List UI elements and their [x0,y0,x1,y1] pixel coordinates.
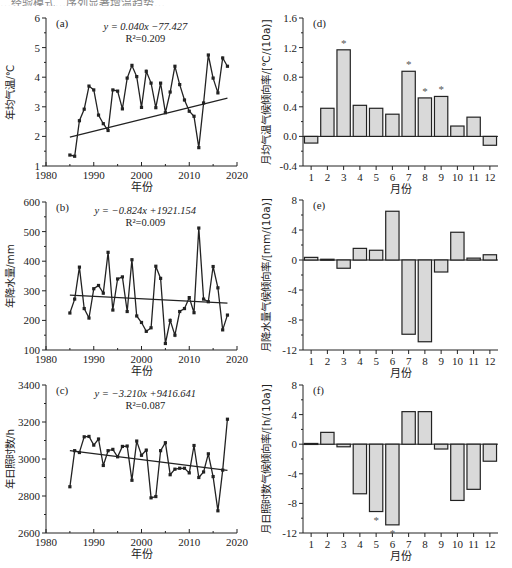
data-point [216,509,219,512]
x-axis-label: 月份 [390,550,412,563]
y-tick-label: -8 [288,497,298,509]
panel-label: (b) [56,201,69,214]
data-point [87,84,90,87]
data-point [216,286,219,289]
y-tick-label: 3000 [18,453,41,465]
x-axis-label: 月份 [390,183,412,196]
y-tick-label: 6 [35,12,41,24]
y-tick-label: 400 [24,255,41,267]
data-point [145,330,148,333]
x-tick-label: 9 [438,355,444,367]
x-tick-label: 3 [341,355,347,367]
data-point [126,310,129,313]
data-point [140,321,143,324]
data-point [178,83,181,86]
data-point [169,319,172,322]
data-point [68,153,71,156]
x-axis-label: 年份 [131,547,153,561]
x-tick-label: 4 [357,538,363,550]
bar-month-8 [418,412,431,445]
x-tick-label: 1980 [35,536,58,548]
x-tick-label: 8 [422,538,428,550]
x-tick-label: 12 [484,355,495,367]
data-point [68,311,71,314]
x-axis-label: 月份 [390,367,412,380]
panel-label: (a) [56,17,69,30]
data-point [135,439,138,442]
data-point [97,437,100,440]
data-point [102,464,105,467]
x-tick-label: 3 [341,538,347,550]
x-tick-label: 1980 [35,169,58,181]
bar-month-10 [451,126,464,136]
x-tick-label: 5 [373,355,379,367]
data-point [159,82,162,85]
data-point [178,467,181,470]
y-axis-label: 月降水量气候倾向率/[mm/(10a)] [260,198,272,352]
data-point [83,108,86,111]
data-point [226,65,229,68]
bar-month-2 [321,108,334,136]
x-tick-label: 2000 [131,169,154,181]
bar-month-11 [467,258,480,260]
x-tick-label: 3 [341,171,347,183]
data-point [188,296,191,299]
data-point [126,444,129,447]
regression-equation: y = 0.040x −77.427 [102,21,188,32]
panel-a: 123456年均气温/℃(a)19801990200020102020年份y =… [4,12,249,194]
x-axis-label: 年份 [131,180,153,194]
data-point [87,435,90,438]
y-tick-label: -4 [288,284,298,296]
data-point [102,122,105,125]
data-point [149,326,152,329]
data-point [126,76,129,79]
significance-marker: * [341,37,347,49]
data-point [173,65,176,68]
y-tick-label: 4 [292,224,298,236]
data-point [116,455,119,458]
data-point [106,449,109,452]
data-point [73,449,76,452]
y-tick-label: 3400 [18,379,41,391]
data-point [92,88,95,91]
data-point [212,475,215,478]
y-tick-label: 0 [292,254,298,266]
significance-marker: * [422,85,428,97]
bar-month-1 [304,257,317,260]
data-point [188,471,191,474]
data-point [97,113,100,116]
data-point [135,314,138,317]
y-tick-label: 200 [24,314,41,326]
y-axis-label: 月日照时数气候倾向率/[h/(10a)] [260,384,272,534]
y-tick-label: 2 [35,130,41,142]
bar-month-12 [483,444,496,461]
data-point [154,495,157,498]
data-point [192,311,195,314]
x-tick-label: 4 [357,171,363,183]
x-tick-label: 1990 [83,169,106,181]
x-tick-label: 1 [308,171,314,183]
data-point [121,445,124,448]
data-point [130,479,133,482]
y-tick-label: 4 [35,71,41,83]
data-point [87,316,90,319]
x-tick-label: 11 [468,171,479,183]
data-point [188,110,191,113]
data-point [207,300,210,303]
data-point [164,342,167,345]
x-tick-label: 11 [468,538,479,550]
data-point [164,111,167,114]
bar-month-5 [369,250,382,260]
data-point [159,277,162,280]
bar-month-3 [337,260,350,268]
data-series-line [70,55,228,156]
x-tick-label: 12 [484,171,495,183]
bar-month-9 [434,260,447,272]
regression-equation: y = −3.210x +9416.641 [94,388,196,399]
x-tick-label: 2020 [226,169,249,181]
panel-e: -12-8-4048月降水量气候倾向率/[mm/(10a)](e)1234567… [260,194,498,380]
bar-month-5 [369,444,382,511]
data-point [145,70,148,73]
y-tick-label: 0 [292,438,298,450]
bar-month-7 [402,71,415,136]
